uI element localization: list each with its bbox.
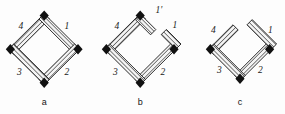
- panel-b-label-1: 1: [173, 20, 178, 30]
- panel-b-caption: b: [138, 97, 143, 107]
- linkage-diagram-canvas: 4 1 2 3 a 4 1' 1 2: [0, 0, 285, 114]
- panel-a-label-2: 2: [65, 67, 70, 77]
- panel-b-label-3: 3: [112, 67, 118, 77]
- panel-c-label-2: 2: [258, 65, 263, 75]
- panel-a-label-3: 3: [16, 67, 22, 77]
- panel-a-caption: a: [42, 97, 47, 107]
- panel-c-label-3: 3: [216, 65, 222, 75]
- panel-a-label-4: 4: [19, 21, 24, 31]
- panel-b-label-1-prime: 1': [156, 5, 164, 15]
- linkage-figure: 4 1 2 3 a 4 1' 1 2: [0, 0, 285, 114]
- panel-b-label-2: 2: [161, 67, 166, 77]
- panel-c-caption: c: [238, 97, 243, 107]
- panel-c-label-1: 1: [268, 25, 273, 35]
- panel-c-label-4: 4: [211, 25, 216, 35]
- panel-a-label-1: 1: [65, 21, 70, 31]
- panel-b-label-4: 4: [115, 21, 120, 31]
